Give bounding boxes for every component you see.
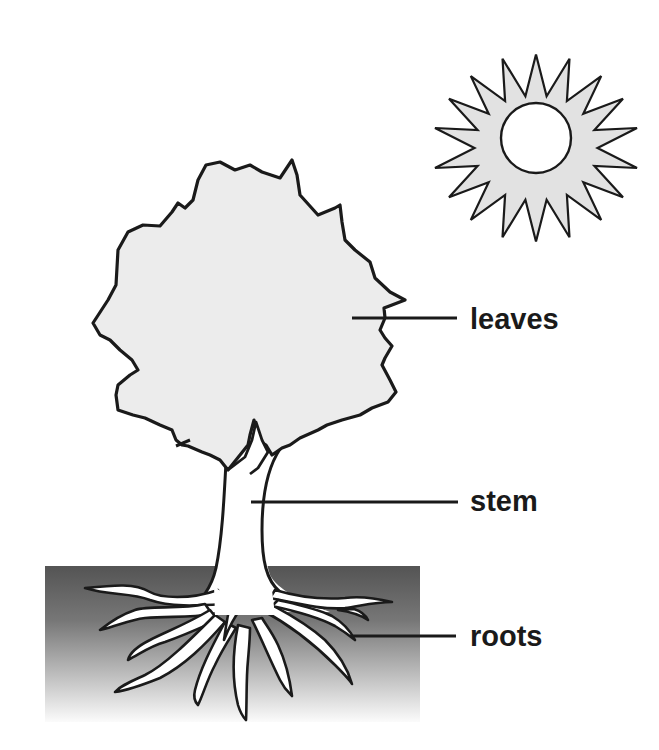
tree-crown: [93, 160, 405, 470]
plant-diagram: [0, 0, 659, 750]
label-roots: roots: [470, 622, 543, 651]
label-leaves: leaves: [470, 305, 559, 334]
sun-core: [501, 103, 571, 173]
label-stem: stem: [470, 487, 538, 516]
sun-icon: [435, 55, 637, 242]
